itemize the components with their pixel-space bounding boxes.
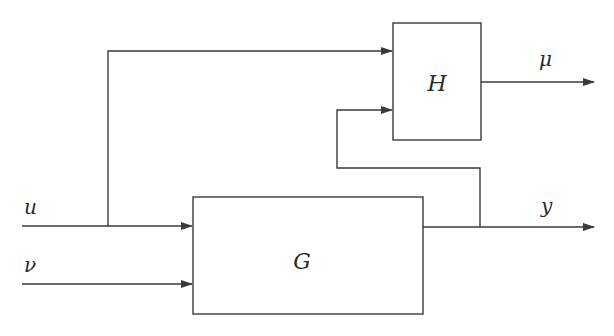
signal-u-label: u [24, 195, 37, 219]
signal-y-label: y [540, 194, 553, 218]
block-g-label: G [293, 249, 311, 274]
block-diagram: H G u ν y μ [0, 0, 614, 336]
block-h-label: H [426, 71, 447, 96]
signal-nu-label: ν [24, 253, 36, 277]
block-g: G [193, 197, 423, 314]
block-h: H [393, 23, 481, 140]
signal-mu-label: μ [539, 47, 552, 71]
